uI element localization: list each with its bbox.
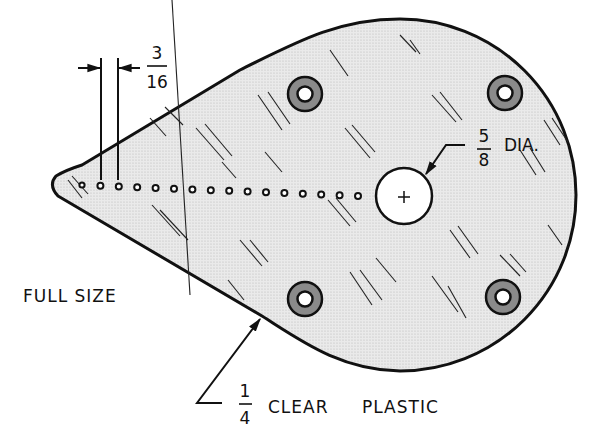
material-label-clear: CLEAR [268,397,329,417]
small-hole [318,192,324,198]
small-hole [97,183,103,189]
center-hole [376,168,432,224]
small-hole [355,193,361,199]
material-denominator: 4 [240,408,251,428]
spacing-denominator: 16 [146,72,168,92]
plate-outline [52,19,576,371]
small-hole [245,189,251,195]
mounting-hole-top-right [488,76,522,110]
dia-denominator: 8 [479,150,490,170]
spacing-numerator: 3 [152,43,163,63]
small-hole [300,191,306,197]
small-hole [337,192,343,198]
mounting-hole-bottom-left [288,282,322,316]
small-hole [263,189,269,195]
scale-label: FULL SIZE [23,286,117,306]
small-hole [153,185,159,191]
small-hole [134,184,140,190]
mounting-hole-top-left [288,77,322,111]
small-hole [79,182,84,187]
small-hole [208,187,214,193]
drawing-canvas: 3 16 5 8 DIA. FULL SIZE 1 4 CLEAR PLASTI… [0,0,597,444]
small-hole [116,183,122,189]
small-hole [281,190,287,196]
material-label-plastic: PLASTIC [362,397,439,417]
small-hole [189,186,195,192]
material-numerator: 1 [240,381,251,401]
dia-suffix: DIA. [504,135,539,155]
small-hole [171,186,177,192]
mounting-hole-bottom-right [486,280,520,314]
small-hole [226,188,232,194]
dia-numerator: 5 [479,126,490,146]
material-leader [197,319,260,403]
